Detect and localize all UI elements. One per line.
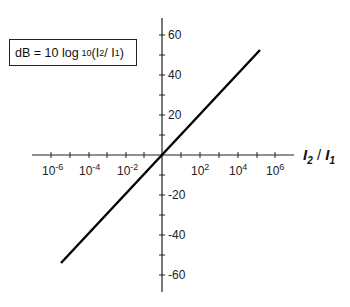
formula-slash: / I bbox=[104, 46, 114, 60]
formula-base: 10 bbox=[82, 48, 92, 58]
x-label-1e2: 102 bbox=[191, 162, 209, 178]
y-label-neg60: -60 bbox=[168, 268, 185, 282]
y-label-neg20: -20 bbox=[168, 188, 185, 202]
x-axis-title: I2 / I1 bbox=[303, 146, 335, 166]
db-line bbox=[61, 50, 260, 263]
y-label-40: 40 bbox=[168, 68, 181, 82]
y-label-60: 60 bbox=[168, 28, 181, 42]
formula-box: dB = 10 log 10 (I2/ I1) bbox=[9, 39, 137, 66]
y-label-20: 20 bbox=[168, 108, 181, 122]
x-label-1e6: 106 bbox=[266, 162, 284, 178]
x-label-1e4: 104 bbox=[229, 162, 247, 178]
formula-close: ) bbox=[120, 46, 124, 60]
x-label-1e-4: 10-4 bbox=[79, 162, 100, 178]
y-label-neg40: -40 bbox=[168, 228, 185, 242]
formula-prefix: dB = 10 log bbox=[15, 46, 79, 60]
x-label-1e-2: 10-2 bbox=[117, 162, 138, 178]
x-label-1e-6: 10-6 bbox=[42, 162, 63, 178]
formula-open: (I bbox=[92, 46, 100, 60]
